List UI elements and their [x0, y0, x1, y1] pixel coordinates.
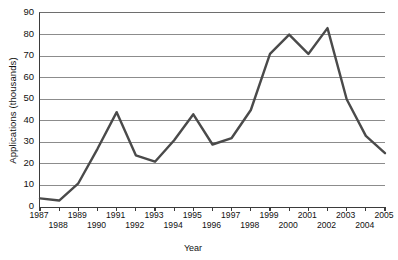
y-tick-label-60: 60 [4, 72, 34, 82]
x-tick-label-1987: 1987 [24, 210, 54, 220]
x-tick-label-1991: 1991 [101, 210, 131, 220]
y-tick-label-30: 30 [4, 136, 34, 146]
x-tick-label-1995: 1995 [177, 210, 207, 220]
x-tick-label-1990: 1990 [82, 220, 112, 230]
x-tick-label-2002: 2002 [312, 220, 342, 230]
x-tick-label-1994: 1994 [158, 220, 188, 230]
y-tick-label-70: 70 [4, 50, 34, 60]
data-line [40, 28, 385, 200]
y-tick-label-20: 20 [4, 158, 34, 168]
x-tick-label-2005: 2005 [369, 210, 398, 220]
y-tick-label-50: 50 [4, 93, 34, 103]
x-tick-label-1989: 1989 [62, 210, 92, 220]
x-tick-label-1999: 1999 [254, 210, 284, 220]
x-tick-label-1996: 1996 [197, 220, 227, 230]
x-tick-label-2001: 2001 [292, 210, 322, 220]
x-tick-label-1998: 1998 [235, 220, 265, 230]
y-tick-label-90: 90 [4, 7, 34, 17]
x-tick-1998 [250, 207, 251, 211]
x-tick-label-2003: 2003 [331, 210, 361, 220]
x-tick-label-2000: 2000 [273, 220, 303, 230]
x-axis-title: Year [0, 243, 386, 253]
x-tick-1988 [59, 207, 60, 211]
x-tick-label-1997: 1997 [216, 210, 246, 220]
x-tick-label-2004: 2004 [350, 220, 380, 230]
plot-area [39, 12, 385, 207]
x-tick-label-1988: 1988 [43, 220, 73, 230]
y-tick-label-80: 80 [4, 29, 34, 39]
x-tick-1994 [174, 207, 175, 211]
y-tick-label-40: 40 [4, 115, 34, 125]
x-tick-2002 [327, 207, 328, 211]
x-tick-1990 [97, 207, 98, 211]
x-tick-label-1992: 1992 [120, 220, 150, 230]
data-series-applications [40, 13, 385, 207]
y-tick-label-10: 10 [4, 179, 34, 189]
x-tick-2004 [365, 207, 366, 211]
x-tick-label-1993: 1993 [139, 210, 169, 220]
x-tick-1996 [212, 207, 213, 211]
x-tick-2000 [289, 207, 290, 211]
x-tick-1992 [135, 207, 136, 211]
